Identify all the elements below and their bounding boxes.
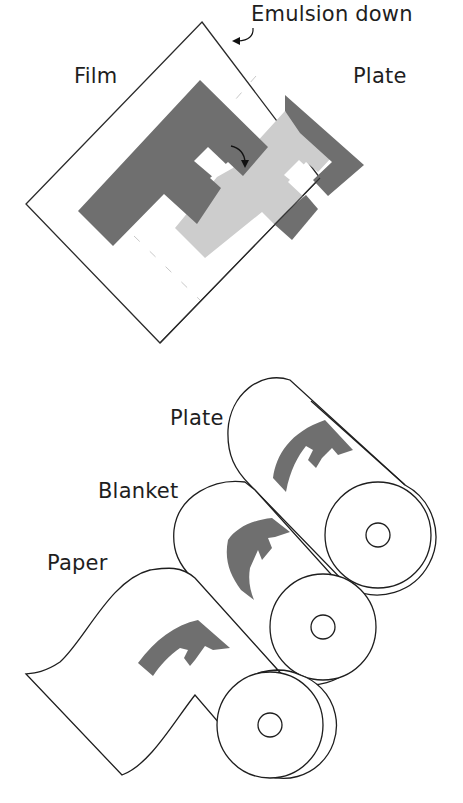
plate-label-top: Plate	[353, 64, 407, 88]
paper-cylinder-hub	[258, 713, 282, 737]
curved-arrow-icon	[232, 28, 253, 45]
blanket-cylinder-hub	[311, 615, 335, 639]
film-label: Film	[74, 64, 117, 88]
offset-press-figure	[26, 378, 436, 779]
plate-cylinder-label: Plate	[170, 406, 224, 430]
blanket-cylinder-label: Blanket	[98, 479, 178, 503]
paper-label: Paper	[47, 551, 107, 575]
diagram-canvas	[0, 0, 463, 803]
plate-cylinder-hub	[366, 523, 390, 547]
emulsion-down-label: Emulsion down	[251, 2, 413, 26]
